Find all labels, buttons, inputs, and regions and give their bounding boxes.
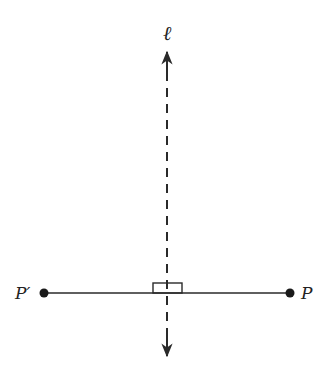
point-p-prime-label: P′	[14, 283, 30, 303]
point-p-label: P	[300, 283, 313, 303]
point-p-prime	[40, 289, 49, 298]
point-p	[286, 289, 295, 298]
line-l-label: ℓ	[163, 21, 172, 45]
reflection-diagram: ℓ P′ P	[0, 0, 328, 379]
